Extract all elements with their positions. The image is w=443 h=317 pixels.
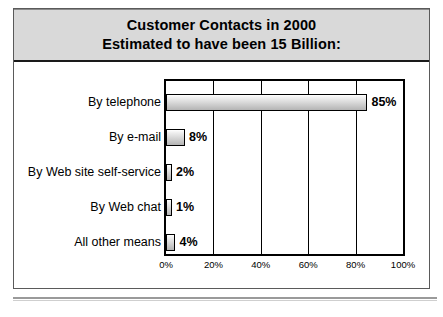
bar-series: 85%8%2%1%4% [166,81,403,254]
bar-value-label: 8% [189,131,207,144]
x-tick-label: 60% [299,259,318,270]
page-subtitle: Estimated to have been 15 Billion: [102,35,341,54]
bar-value-label: 1% [176,201,194,214]
page-title: Customer Contacts in 2000 [127,16,316,35]
x-tick-label: 40% [251,259,270,270]
bar-value-label: 4% [179,236,197,249]
bar [166,164,172,181]
category-label: By telephone [0,94,161,111]
category-label: By e-mail [0,129,161,146]
category-label: By Web chat [0,199,161,216]
bar [166,129,185,146]
x-tick-label: 80% [346,259,365,270]
chart-region: 85%8%2%1%4% By telephoneBy e-mailBy Web … [14,62,429,288]
bar-row: 85% [166,94,396,111]
category-label: By Web site self-service [0,164,161,181]
plot-area: 85%8%2%1%4% [164,79,405,256]
figure-card: Customer Contacts in 2000 Estimated to h… [13,8,430,289]
bottom-rule-shadow [13,300,437,301]
bottom-rule [13,297,437,299]
bar-value-label: 85% [371,96,396,109]
bar-value-label: 2% [176,166,194,179]
bar [166,199,172,216]
x-tick-label: 20% [204,259,223,270]
x-tick-label: 100% [391,259,415,270]
x-tick-label: 0% [159,259,173,270]
bar-row: 4% [166,234,198,251]
bar [166,234,175,251]
bar-row: 8% [166,129,207,146]
bar-row: 1% [166,199,194,216]
chart-title-banner: Customer Contacts in 2000 Estimated to h… [14,9,429,62]
bar [166,94,367,111]
bar-row: 2% [166,164,194,181]
category-label: All other means [0,234,161,251]
